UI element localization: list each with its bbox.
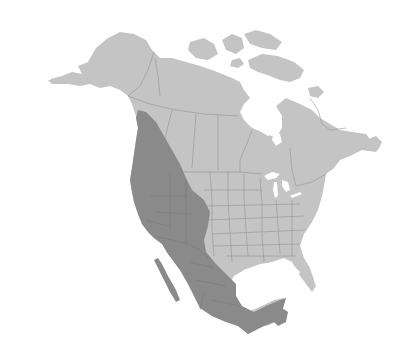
arctic-island-victoria	[188, 38, 218, 60]
florida	[298, 262, 316, 292]
arctic-island-ellesmere	[244, 30, 282, 50]
arctic-island-small-1	[230, 58, 244, 68]
arctic-island-small-2	[308, 86, 324, 98]
range-map	[0, 0, 413, 360]
arctic-island-banks	[222, 34, 244, 54]
arctic-island-baffin	[248, 54, 304, 82]
